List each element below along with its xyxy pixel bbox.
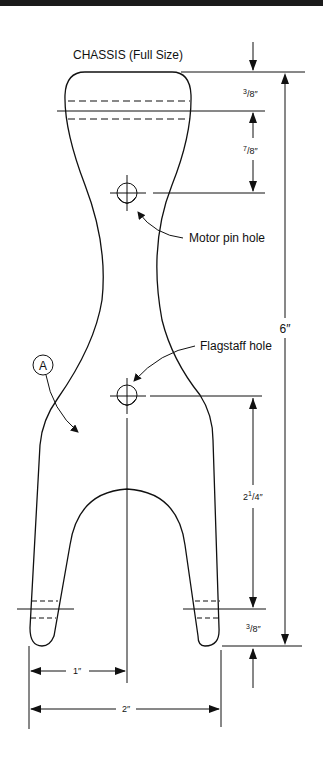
arrow-up-icon <box>281 73 289 84</box>
arrow-right-icon <box>115 667 126 675</box>
arrow-down-icon <box>249 60 257 71</box>
arrow-right-icon <box>209 705 220 713</box>
arrow-up-icon <box>249 648 257 659</box>
chassis-drawing: CHASSIS (Full Size) Motor pin hole Flags… <box>0 0 323 767</box>
detail-marker-leader <box>46 375 78 432</box>
motor-pin-hole <box>110 175 146 211</box>
arrow-down-icon <box>281 634 289 645</box>
left-leg-markings <box>17 601 74 618</box>
arrow-left-icon <box>30 705 41 713</box>
drawing-title: CHASSIS (Full Size) <box>73 48 183 62</box>
motor-pin-label: Motor pin hole <box>189 231 265 245</box>
arrow-up-icon <box>249 398 257 409</box>
chassis-outline <box>30 72 219 646</box>
arrow-down-icon <box>249 597 257 608</box>
arrow-up-icon <box>249 112 257 123</box>
half-width-label: 1″ <box>73 666 82 676</box>
flagstaff-to-leg-label: 21/4″ <box>243 490 263 502</box>
detail-marker-label: A <box>39 359 47 373</box>
flagstaff-hole <box>110 378 146 414</box>
arrow-left-icon <box>30 667 41 675</box>
overall-height-label: 6″ <box>280 322 292 336</box>
motor-pin-offset-label: 7/8″ <box>243 145 258 156</box>
top-offset-label: 3/8″ <box>243 88 258 99</box>
flagstaff-label: Flagstaff hole <box>200 339 272 353</box>
full-width-label: 2″ <box>122 704 131 714</box>
leg-end-offset-label: 3/8″ <box>246 623 261 634</box>
arrow-down-icon <box>249 181 257 192</box>
